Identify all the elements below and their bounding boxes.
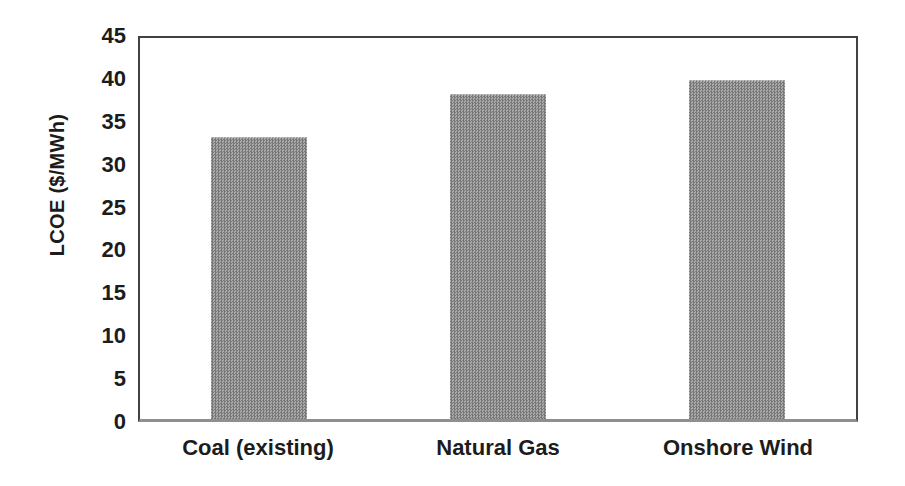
y-tick-label-40: 40 [102,68,126,90]
x-category-label-onshore-wind: Onshore Wind [618,434,858,463]
x-category-label-coal-existing: Coal (existing) [138,434,378,463]
bar-onshore-wind [689,80,785,420]
lcoe-bar-chart: LCOE ($/MWh) 051015202530354045 Coal (ex… [0,0,905,486]
plot-area [138,36,858,422]
y-tick-label-35: 35 [102,111,126,133]
x-category-label-natural-gas: Natural Gas [378,434,618,463]
y-axis-ticks: 051015202530354045 [0,36,126,422]
y-tick-label-10: 10 [102,325,126,347]
y-tick-label-45: 45 [102,25,126,47]
y-tick-label-5: 5 [114,368,126,390]
y-tick-label-20: 20 [102,239,126,261]
y-tick-label-30: 30 [102,154,126,176]
y-tick-label-25: 25 [102,197,126,219]
x-axis-labels: Coal (existing)Natural GasOnshore Wind [138,434,858,463]
bar-coal-existing [211,137,307,419]
y-tick-label-0: 0 [114,411,126,433]
y-tick-label-15: 15 [102,282,126,304]
bar-natural-gas [450,94,546,419]
